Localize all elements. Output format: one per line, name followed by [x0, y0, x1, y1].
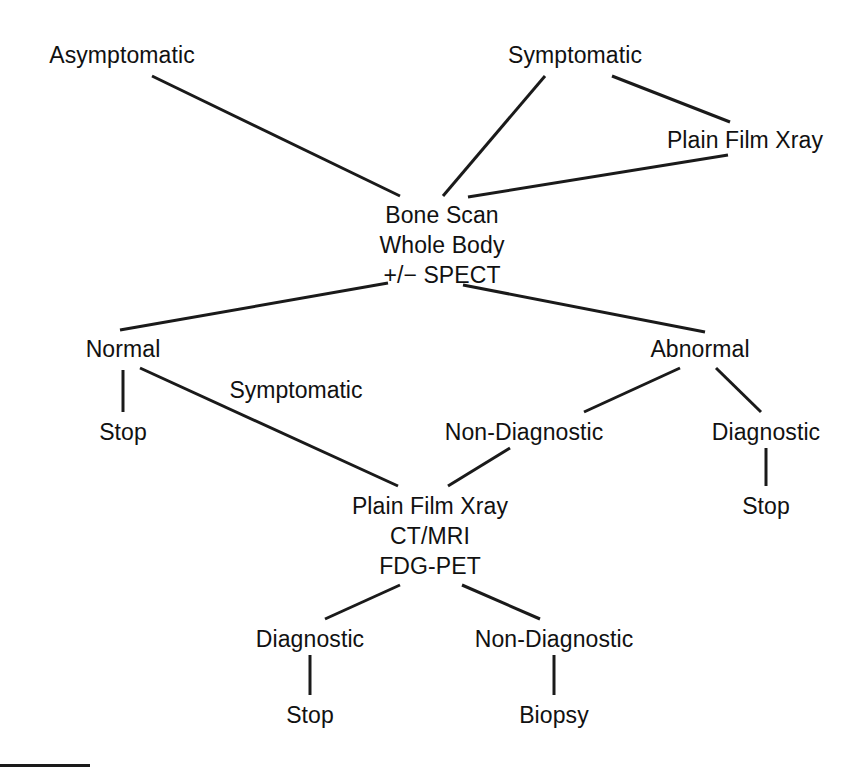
node-asymptomatic: Asymptomatic: [49, 40, 195, 70]
node-bone_scan-line-0: Bone Scan: [379, 200, 504, 230]
node-non_diagnostic_1: Non-Diagnostic: [445, 417, 604, 447]
node-workup-line-2: FDG-PET: [352, 551, 508, 581]
edge-symptomatic_top-bone_scan: [443, 76, 545, 196]
node-normal: Normal: [86, 334, 161, 364]
edge-non_diagnostic_1-workup: [448, 448, 510, 486]
node-workup: Plain Film XrayCT/MRIFDG-PET: [352, 491, 508, 581]
node-workup-line-1: CT/MRI: [352, 521, 508, 551]
node-plain_film_top-line-0: Plain Film Xray: [667, 125, 823, 155]
node-stop_normal-line-0: Stop: [99, 417, 147, 447]
node-non_diagnostic_2: Non-Diagnostic: [475, 624, 634, 654]
edge-workup-diagnostic_2: [325, 585, 400, 619]
node-diagnostic_2-line-0: Diagnostic: [256, 624, 364, 654]
edge-asymptomatic-bone_scan: [152, 76, 400, 196]
edge-bone_scan-normal: [120, 283, 388, 330]
edge-workup-non_diagnostic_2: [462, 585, 540, 619]
footer-rule: [0, 764, 90, 767]
node-plain_film_top: Plain Film Xray: [667, 125, 823, 155]
edge-plain_film_top-bone_scan: [468, 155, 728, 197]
edge-abnormal-diagnostic: [716, 368, 761, 412]
node-abnormal: Abnormal: [650, 334, 749, 364]
edge-abnormal-non_diagnostic: [584, 368, 680, 412]
node-stop_diagnostic_2-line-0: Stop: [286, 700, 334, 730]
node-stop_diagnostic_1-line-0: Stop: [742, 491, 790, 521]
flowchart-edge-layer: [0, 0, 859, 780]
node-non_diagnostic_1-line-0: Non-Diagnostic: [445, 417, 604, 447]
node-workup-line-0: Plain Film Xray: [352, 491, 508, 521]
node-abnormal-line-0: Abnormal: [650, 334, 749, 364]
node-non_diagnostic_2-line-0: Non-Diagnostic: [475, 624, 634, 654]
node-normal-line-0: Normal: [86, 334, 161, 364]
node-stop_diagnostic_2: Stop: [286, 700, 334, 730]
node-diagnostic_2: Diagnostic: [256, 624, 364, 654]
edge-symptomatic_top-plain_film: [612, 76, 730, 122]
node-diagnostic_1-line-0: Diagnostic: [712, 417, 820, 447]
node-bone_scan: Bone ScanWhole Body+/− SPECT: [379, 200, 504, 290]
node-diagnostic_1: Diagnostic: [712, 417, 820, 447]
node-symptomatic_top: Symptomatic: [508, 40, 642, 70]
node-asymptomatic-line-0: Asymptomatic: [49, 40, 195, 70]
flowchart-canvas: AsymptomaticSymptomaticPlain Film XrayBo…: [0, 0, 859, 780]
node-stop_diagnostic_1: Stop: [742, 491, 790, 521]
node-symptomatic_top-line-0: Symptomatic: [508, 40, 642, 70]
edge-label-symptomatic-branch-label: Symptomatic: [230, 375, 363, 405]
node-bone_scan-line-1: Whole Body: [379, 230, 504, 260]
edge-bone_scan-abnormal: [463, 285, 705, 332]
node-stop_normal: Stop: [99, 417, 147, 447]
node-biopsy: Biopsy: [519, 700, 589, 730]
node-biopsy-line-0: Biopsy: [519, 700, 589, 730]
node-bone_scan-line-2: +/− SPECT: [379, 260, 504, 290]
